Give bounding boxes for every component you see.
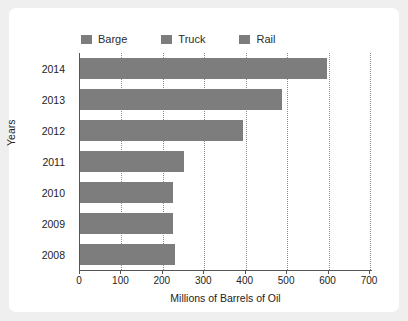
- x-tick-500: [286, 270, 287, 274]
- legend-label-barge: Barge: [98, 34, 127, 45]
- x-tick-label-400: 400: [236, 275, 253, 286]
- x-tick-700: [369, 270, 370, 274]
- y-tick-label-2008: 2008: [42, 249, 65, 261]
- y-tick-label-2013: 2013: [42, 94, 65, 106]
- bar-2008[interactable]: [80, 244, 175, 265]
- y-tick-label-2012: 2012: [42, 125, 65, 137]
- y-tick-label-2011: 2011: [42, 156, 65, 168]
- bar-2012[interactable]: [80, 120, 243, 141]
- bar-2010[interactable]: [80, 182, 173, 203]
- legend-swatch-rail: [239, 35, 250, 44]
- gridline-400: [246, 53, 247, 270]
- bar-2009[interactable]: [80, 213, 173, 234]
- x-tick-600: [328, 270, 329, 274]
- chart-card: Barge Truck Rail Years 20142013201220112…: [9, 8, 399, 312]
- legend-label-truck: Truck: [178, 34, 205, 45]
- legend-item-rail[interactable]: Rail: [239, 34, 275, 45]
- legend-swatch-truck: [161, 35, 172, 44]
- x-tick-0: [79, 270, 80, 274]
- y-tick-label-2010: 2010: [42, 187, 65, 199]
- x-tick-400: [245, 270, 246, 274]
- x-tick-100: [120, 270, 121, 274]
- gridline-300: [204, 53, 205, 270]
- x-tick-label-300: 300: [195, 275, 212, 286]
- x-tick-300: [203, 270, 204, 274]
- legend-item-truck[interactable]: Truck: [161, 34, 205, 45]
- gridline-500: [287, 53, 288, 270]
- y-tick-label-2014: 2014: [42, 63, 65, 75]
- screenshot-root: Barge Truck Rail Years 20142013201220112…: [0, 0, 408, 321]
- bar-2011[interactable]: [80, 151, 184, 172]
- y-tick-label-2009: 2009: [42, 218, 65, 230]
- x-tick-label-0: 0: [76, 275, 82, 286]
- y-axis-tick-labels: 2014201320122011201020092008: [9, 53, 73, 270]
- gridline-700: [370, 53, 371, 270]
- x-tick-label-200: 200: [154, 275, 171, 286]
- bar-2013[interactable]: [80, 89, 282, 110]
- legend-label-rail: Rail: [256, 34, 275, 45]
- x-tick-label-700: 700: [361, 275, 378, 286]
- x-tick-200: [162, 270, 163, 274]
- x-axis-title: Millions of Barrels of Oil: [79, 292, 372, 304]
- legend-swatch-barge: [81, 35, 92, 44]
- bar-2014[interactable]: [80, 58, 327, 79]
- gridline-600: [329, 53, 330, 270]
- legend-item-barge[interactable]: Barge: [81, 34, 127, 45]
- x-tick-label-500: 500: [278, 275, 295, 286]
- plot-area: [79, 53, 370, 270]
- chart-legend: Barge Truck Rail: [81, 30, 341, 48]
- x-tick-label-100: 100: [112, 275, 129, 286]
- x-tick-label-600: 600: [319, 275, 336, 286]
